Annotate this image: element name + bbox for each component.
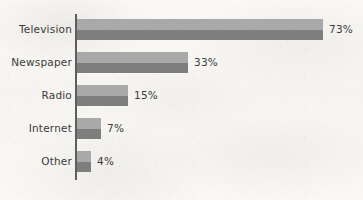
value-label-internet: 7%	[107, 122, 124, 134]
category-label-internet: Internet	[29, 122, 72, 134]
category-label-radio: Radio	[41, 89, 72, 101]
bar-television[interactable]	[77, 19, 323, 40]
bar-newspaper[interactable]	[77, 52, 188, 73]
bar-chart-figure: Television 73% Newspaper 33% Radio 15%	[0, 0, 363, 200]
value-label-other: 4%	[97, 155, 114, 167]
value-label-television: 73%	[329, 23, 353, 35]
bar-segment-light	[77, 118, 101, 129]
bar-segment-light	[77, 85, 128, 96]
category-label-other: Other	[41, 155, 72, 167]
bar-segment-dark	[77, 162, 91, 172]
bar-segment-light	[77, 19, 323, 30]
bar-segment-dark	[77, 129, 101, 139]
bar-radio[interactable]	[77, 85, 128, 106]
bar-segment-dark	[77, 63, 188, 73]
bar-segment-dark	[77, 30, 323, 40]
category-label-television: Television	[19, 23, 72, 35]
bar-segment-dark	[77, 96, 128, 106]
category-label-newspaper: Newspaper	[11, 56, 72, 68]
bar-segment-light	[77, 151, 91, 162]
value-label-newspaper: 33%	[194, 56, 218, 68]
bar-other[interactable]	[77, 151, 91, 172]
bar-internet[interactable]	[77, 118, 101, 139]
bar-segment-light	[77, 52, 188, 63]
value-label-radio: 15%	[134, 89, 158, 101]
plot-area: Television 73% Newspaper 33% Radio 15%	[0, 0, 363, 200]
